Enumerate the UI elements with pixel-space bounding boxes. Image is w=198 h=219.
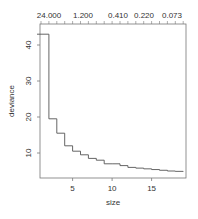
y-axis-label: deviance	[7, 84, 16, 117]
y-tick-label: 10	[24, 148, 33, 157]
x-tick-label: 10	[108, 184, 117, 193]
top-axis-labels: 24.0001.2000.4100.2200.073	[37, 11, 183, 20]
x-tick-label: 15	[147, 184, 156, 193]
top-axis-label: 0.220	[134, 11, 155, 20]
y-tick-label: 20	[24, 112, 33, 121]
x-axis-ticks: 51015	[70, 178, 156, 193]
top-axis-label: 0.073	[162, 11, 183, 20]
y-axis-ticks: 10203040	[24, 40, 40, 157]
y-tick-label: 30	[24, 76, 33, 85]
x-axis-label: size	[106, 198, 121, 207]
deviance-step-line	[37, 34, 183, 172]
y-tick-label: 40	[24, 40, 33, 49]
top-axis-ticks	[41, 21, 183, 24]
x-tick-label: 5	[70, 184, 75, 193]
deviance-size-chart: 24.0001.2000.4100.2200.073 51015 1020304…	[0, 0, 198, 219]
top-axis-label: 0.410	[108, 11, 129, 20]
top-axis-label: 1.200	[73, 11, 94, 20]
plot-frame	[40, 24, 186, 178]
top-axis-label: 24.000	[37, 11, 62, 20]
